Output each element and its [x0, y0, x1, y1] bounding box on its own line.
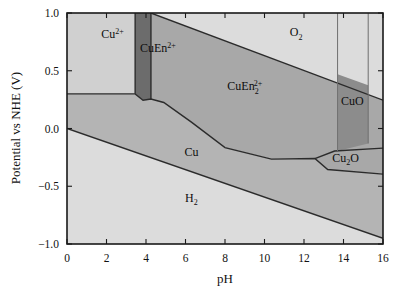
region-cu2plus: [67, 13, 135, 94]
region-cuo: [338, 74, 369, 151]
x-tick-label: 2: [104, 252, 110, 264]
region-fills: [67, 13, 383, 244]
x-tick-label: 4: [143, 252, 149, 264]
x-tick-label: 10: [259, 252, 271, 264]
y-tick-label: −1.0: [38, 238, 59, 250]
x-tick-label: 0: [64, 252, 70, 264]
pourbaix-figure: Cu2+CuEn2+O2CuEn22+CuOCu2OCuH2 024681012…: [0, 0, 414, 293]
y-tick-label: 0.5: [45, 65, 60, 77]
y-tick-label: 0.0: [45, 123, 60, 135]
y-tick-label: −0.5: [38, 180, 59, 192]
x-tick-label: 12: [298, 252, 310, 264]
y-axis-title: Potential vs NHE (V): [8, 72, 23, 184]
x-tick-label: 14: [338, 252, 350, 264]
x-tick-label: 6: [183, 252, 189, 264]
x-tick-label: 16: [377, 252, 389, 264]
region-label-cu: Cu: [184, 145, 198, 159]
region-label-cuen2_2plus: CuEn22+: [227, 79, 262, 96]
region-cuen2plus: [135, 13, 151, 100]
y-tick-label: 1.0: [45, 7, 60, 19]
region-label-cuo: CuO: [341, 94, 364, 108]
pourbaix-chart: Cu2+CuEn2+O2CuEn22+CuOCu2OCuH2 024681012…: [0, 0, 414, 293]
x-tick-label: 8: [222, 252, 228, 264]
x-axis-title: pH: [217, 271, 233, 286]
